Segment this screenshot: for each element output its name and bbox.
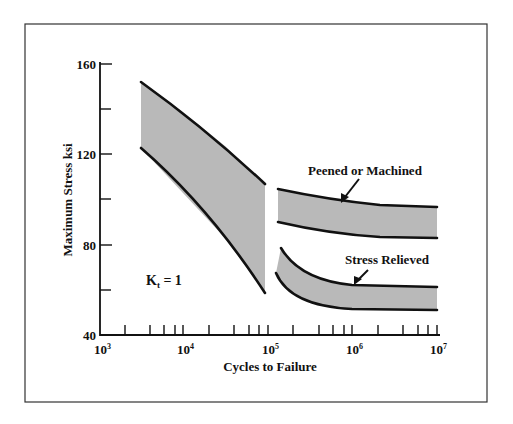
x-tick-1e7: 107 bbox=[430, 342, 447, 357]
x-axis-title: Cycles to Failure bbox=[223, 359, 317, 374]
low-cycle-band bbox=[141, 82, 265, 293]
x-tick-1e5: 105 bbox=[262, 342, 279, 357]
y-axis-title: Maximum Stress ksi bbox=[60, 143, 75, 257]
y-tick-80: 80 bbox=[83, 238, 96, 253]
relieved-arrow-icon bbox=[354, 270, 368, 285]
kt-annotation: Kt = 1 bbox=[146, 273, 182, 290]
peened-arrow-icon bbox=[341, 179, 359, 203]
x-tick-labels: 103 104 105 106 107 bbox=[94, 342, 447, 357]
x-tick-1e6: 106 bbox=[346, 342, 363, 357]
y-tick-labels: 160 120 80 40 bbox=[77, 57, 97, 343]
x-tick-1e4: 104 bbox=[177, 342, 194, 357]
y-tick-120: 120 bbox=[77, 147, 97, 162]
y-tick-160: 160 bbox=[77, 57, 97, 72]
y-tick-40: 40 bbox=[83, 328, 96, 343]
stress-relieved-label: Stress Relieved bbox=[345, 252, 430, 267]
peened-machined-band bbox=[278, 189, 437, 238]
x-ticks bbox=[125, 325, 437, 335]
peened-machined-label: Peened or Machined bbox=[308, 163, 423, 178]
fatigue-chart: 160 120 80 40 103 104 105 106 107 Cycles… bbox=[0, 0, 513, 424]
y-ticks bbox=[100, 64, 112, 290]
x-tick-1e3: 103 bbox=[94, 342, 111, 357]
